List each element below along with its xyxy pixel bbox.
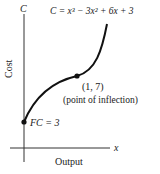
fixed-cost-point xyxy=(21,119,26,124)
cost-curve xyxy=(24,24,107,122)
inflection-coordinates: (1, 7) xyxy=(82,82,104,92)
inflection-point xyxy=(74,73,79,78)
y-axis-symbol: C xyxy=(20,4,27,14)
x-axis-symbol: x xyxy=(114,143,118,153)
x-axis-label: Output xyxy=(55,157,83,167)
fixed-cost-label: FC = 3 xyxy=(30,118,60,128)
inflection-description: (point of inflection) xyxy=(63,95,138,105)
equation-label: C = x³ − 3x² + 6x + 3 xyxy=(50,6,134,16)
y-axis-label: Cost xyxy=(3,60,14,78)
cost-function-chart: C C = x³ − 3x² + 6x + 3 Cost (1, 7) (poi… xyxy=(0,0,160,174)
chart-plot xyxy=(0,0,160,174)
